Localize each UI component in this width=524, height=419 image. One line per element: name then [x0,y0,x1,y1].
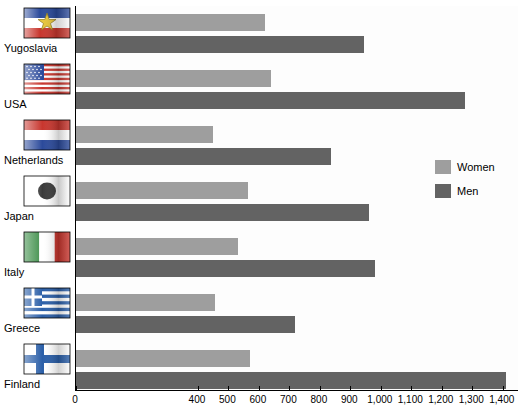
axis-tick-label: 800 [311,394,328,405]
axis-tick [503,386,504,391]
axis-tick [76,386,77,391]
axis-tick [228,386,229,391]
axis-tick-label: 1,200 [428,394,453,405]
axis-tick-label: 1,400 [489,394,514,405]
axis-tick-label: 700 [280,394,297,405]
legend-swatch-men [435,184,451,198]
bar-women-japan [76,182,248,199]
flag-japan-icon [22,174,72,208]
axis-tick-label: 1,000 [367,394,392,405]
category-label-yugoslavia: Yugoslavia [4,42,57,54]
bar-men-netherlands [76,148,331,165]
bar-men-italy [76,260,375,277]
bar-women-greece [76,294,215,311]
bar-men-greece [76,316,295,333]
bar-women-netherlands [76,126,213,143]
axis-tick-label: 0 [72,394,78,405]
axis-tick [411,386,412,391]
category-label-greece: Greece [4,322,40,334]
axis-tick-label: 900 [341,394,358,405]
bar-women-finland [76,350,250,367]
axis-tick-label: 600 [250,394,267,405]
bar-women-usa [76,70,271,87]
legend-swatch-women [435,160,451,174]
legend: Women Men [435,160,495,208]
flag-finland-icon [22,342,72,376]
category-label-japan: Japan [4,210,34,222]
legend-label-women: Women [457,161,495,173]
axis-tick [259,386,260,391]
bar-women-yugoslavia [76,14,265,31]
flag-usa-icon [22,62,72,96]
axis-tick [320,386,321,391]
category-label-finland: Finland [4,378,40,390]
axis-tick-label: 1,300 [459,394,484,405]
category-label-italy: Italy [4,266,24,278]
flag-greece-icon [22,286,72,320]
category-label-usa: USA [4,98,27,110]
bar-men-japan [76,204,369,221]
category-label-netherlands: Netherlands [4,154,63,166]
axis-tick [381,386,382,391]
axis-tick-label: 400 [189,394,206,405]
flag-yugoslavia-icon [22,6,72,40]
flag-italy-icon [22,230,72,264]
axis-tick [350,386,351,391]
bar-men-yugoslavia [76,36,364,53]
bar-women-italy [76,238,238,255]
axis-tick-label: 1,100 [398,394,423,405]
axis-tick [442,386,443,391]
chart-page: 04005006007008009001,0001,1001,2001,3001… [0,0,524,419]
axis-tick-label: 500 [219,394,236,405]
legend-item-men: Men [435,184,495,198]
axis-tick [198,386,199,391]
bar-men-usa [76,92,465,109]
axis-tick [472,386,473,391]
legend-label-men: Men [457,185,478,197]
axis-tick [289,386,290,391]
flag-netherlands-icon [22,118,72,152]
legend-item-women: Women [435,160,495,174]
